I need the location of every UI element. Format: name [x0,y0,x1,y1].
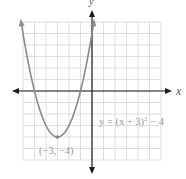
y-axis-label: y [88,0,94,7]
x-axis-left-arrow-icon [12,88,19,94]
equation-main: y = (x + 3) [99,116,145,128]
vertex-point [56,135,60,139]
y-axis-up-arrow-icon [89,10,95,17]
x-axis-label: x [175,84,182,98]
curve-right-arrow-icon [90,19,96,26]
parabola-graph: x y y = (x + 3)2 − 4 (−3, −4) [0,0,186,179]
y-axis-down-arrow-icon [89,167,95,174]
equation-label: y = (x + 3)2 − 4 [99,115,165,128]
x-axis-right-arrow-icon [165,88,172,94]
curve-left-arrow-icon [19,19,25,26]
vertex-label: (−3, −4) [39,145,74,157]
equation-tail: − 4 [148,116,165,127]
